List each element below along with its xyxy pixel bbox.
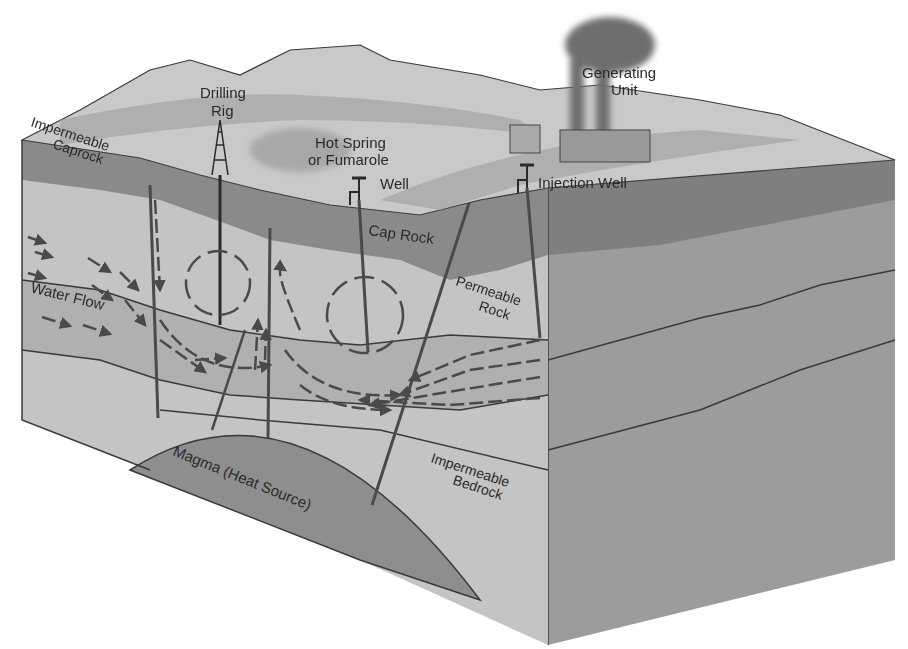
label-generating-unit-1: Generating xyxy=(582,64,656,81)
label-well: Well xyxy=(380,175,409,192)
label-hot-spring-1: Hot Spring xyxy=(315,134,386,151)
label-drilling-rig-2: Rig xyxy=(211,102,234,119)
geothermal-diagram: Drilling Rig Generating Unit Impermeable… xyxy=(0,0,908,649)
label-drilling-rig-1: Drilling xyxy=(200,84,246,101)
side-face xyxy=(548,160,895,645)
label-hot-spring-2: or Fumarole xyxy=(308,151,389,168)
front-face xyxy=(22,140,548,645)
label-injection-well: Injection Well xyxy=(538,174,627,191)
label-generating-unit-2: Unit xyxy=(611,81,639,98)
